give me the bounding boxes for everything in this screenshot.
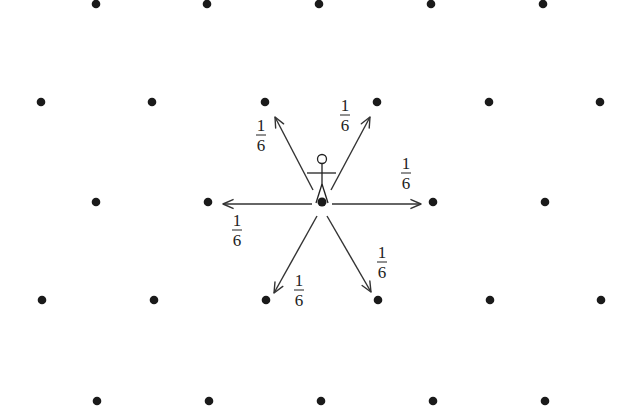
fraction-denominator: 6 — [341, 116, 350, 135]
lattice-point — [148, 98, 157, 107]
lattice-point — [38, 296, 47, 305]
lattice-point — [150, 296, 159, 305]
arrow-shaft — [275, 117, 313, 190]
arrow-shaft — [331, 117, 370, 190]
walker-head — [318, 155, 327, 164]
lattice-point — [597, 296, 606, 305]
lattice-point — [486, 296, 495, 305]
lattice-point — [93, 397, 102, 406]
arrow-shaft — [327, 216, 371, 292]
arrow-upper-left — [275, 117, 313, 190]
arrow-right — [332, 200, 421, 209]
lattice-point — [204, 198, 213, 207]
lattice-point — [427, 0, 436, 8]
probability-label: 16 — [256, 116, 266, 155]
fraction-numerator: 1 — [233, 211, 242, 230]
fraction-numerator: 1 — [341, 96, 350, 115]
lattice-point — [205, 397, 214, 406]
lattice-point — [429, 198, 438, 207]
arrow-left — [223, 200, 312, 209]
fraction-numerator: 1 — [257, 116, 266, 135]
fraction-denominator: 6 — [402, 174, 411, 193]
lattice-point — [374, 296, 383, 305]
arrow-lower-right — [327, 216, 371, 292]
probability-label: 16 — [377, 243, 387, 282]
probability-label: 16 — [294, 271, 304, 310]
walker-position-dot — [318, 198, 327, 207]
lattice-point — [262, 296, 271, 305]
lattice-diagram: 161616161616 — [0, 0, 638, 408]
lattice-point — [92, 198, 101, 207]
lattice-point — [485, 98, 494, 107]
fraction-denominator: 6 — [233, 231, 242, 250]
probability-label: 16 — [340, 96, 350, 135]
lattice-point — [373, 98, 382, 107]
fraction-numerator: 1 — [402, 154, 411, 173]
lattice-point — [37, 98, 46, 107]
fraction-numerator: 1 — [295, 271, 304, 290]
arrowhead-icon — [362, 281, 371, 292]
lattice-point — [92, 0, 101, 8]
probability-label: 16 — [401, 154, 411, 193]
fraction-denominator: 6 — [295, 291, 304, 310]
arrow-upper-right — [331, 117, 370, 190]
lattice-point — [539, 0, 548, 8]
probability-label: 16 — [232, 211, 242, 250]
lattice-point — [317, 397, 326, 406]
lattice-point — [261, 98, 270, 107]
lattice-point — [541, 397, 550, 406]
diagram-canvas: 161616161616 — [0, 0, 638, 408]
fraction-numerator: 1 — [378, 243, 387, 262]
lattice-point — [203, 0, 212, 8]
lattice-point — [429, 397, 438, 406]
walker-figure — [307, 155, 336, 207]
fraction-denominator: 6 — [257, 136, 266, 155]
lattice-point — [596, 98, 605, 107]
fraction-denominator: 6 — [378, 263, 387, 282]
lattice-point — [541, 198, 550, 207]
lattice-point — [315, 0, 324, 8]
